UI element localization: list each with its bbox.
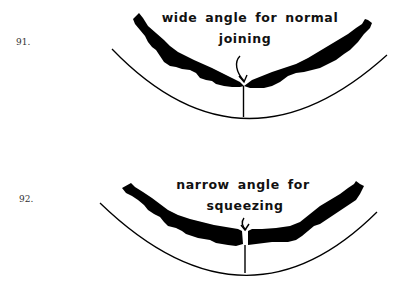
caption-92-line1: narrow angle for [163, 177, 323, 192]
caption-92-line2: squeezing [190, 198, 300, 213]
right-piece-91 [244, 19, 372, 88]
figure-number-92: 92. [19, 194, 33, 204]
figure-number-91: 91. [16, 37, 30, 47]
caption-91-line1: wide angle for normal [150, 10, 350, 25]
figure-91-drawing [112, 13, 387, 119]
figure-92-drawing [100, 181, 377, 275]
caption-91-line2: joining [190, 31, 300, 46]
